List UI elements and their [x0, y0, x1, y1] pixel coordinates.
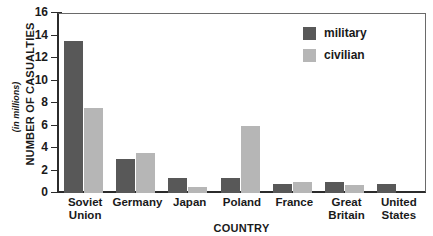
y-tick-label: 10	[22, 74, 48, 86]
y-tick-label: 8	[22, 96, 48, 108]
y-tick-label: 2	[22, 164, 48, 176]
y-tick-label: 0	[22, 186, 48, 198]
bar-military-france	[273, 184, 292, 193]
x-tick-label: UnitedStates	[367, 196, 431, 222]
x-tick-label-line: Union	[53, 209, 117, 222]
legend-swatch-icon	[303, 27, 316, 40]
y-tick-label: 6	[22, 119, 48, 131]
x-axis-title: COUNTRY	[57, 222, 426, 234]
bar-military-united-states	[377, 184, 396, 193]
bars-layer	[59, 13, 425, 193]
bar-military-germany	[116, 159, 135, 193]
legend: militarycivilian	[303, 24, 367, 68]
y-tick-label: 12	[22, 51, 48, 63]
bar-civilian-soviet-union	[84, 108, 103, 194]
bar-military-poland	[221, 178, 240, 193]
legend-label: military	[324, 26, 367, 40]
x-tick-label-line: United	[367, 196, 431, 209]
x-tick-label-line: States	[367, 209, 431, 222]
bar-military-great-britain	[325, 182, 344, 193]
y-tick-label: 16	[22, 6, 48, 18]
legend-swatch-icon	[303, 49, 316, 62]
legend-item-civilian[interactable]: civilian	[303, 46, 367, 64]
y-axis-subtitle: (in millions)	[11, 67, 21, 147]
y-tick-label: 4	[22, 141, 48, 153]
bar-military-soviet-union	[64, 41, 83, 193]
bar-civilian-poland	[241, 126, 260, 194]
casualties-bar-chart: NUMBER OF CASUALTIES (in millions) 16141…	[0, 0, 433, 236]
bar-civilian-france	[293, 182, 312, 193]
bar-military-japan	[168, 178, 187, 193]
bar-civilian-germany	[136, 153, 155, 194]
legend-label: civilian	[324, 48, 365, 62]
bar-civilian-japan	[188, 187, 207, 193]
bar-civilian-great-britain	[345, 185, 364, 193]
y-tick-label: 14	[22, 29, 48, 41]
legend-item-military[interactable]: military	[303, 24, 367, 42]
